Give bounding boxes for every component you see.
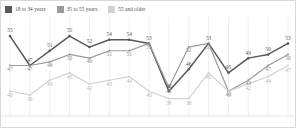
- data-label: 52: [186, 47, 192, 53]
- data-label: 47: [265, 66, 271, 72]
- data-label: 44: [126, 78, 132, 84]
- data-label: 44: [265, 78, 271, 84]
- data-label: 43: [107, 81, 113, 87]
- data-label: 51: [107, 51, 113, 57]
- legend-swatch-icon: [57, 6, 64, 13]
- data-label: 40: [7, 92, 13, 98]
- data-label: 43: [47, 81, 53, 87]
- legend-swatch-icon: [5, 6, 12, 13]
- data-label: 51: [47, 42, 53, 48]
- legend-label: 55 and older: [118, 6, 145, 13]
- data-label: 54: [107, 31, 113, 37]
- chart-frame: 18 to 34 years 35 to 55 years 55 and old…: [0, 0, 296, 128]
- legend-swatch-icon: [108, 6, 115, 13]
- data-label: 50: [285, 55, 291, 61]
- data-label: 42: [246, 85, 252, 91]
- data-label: 38: [186, 100, 192, 106]
- data-label: 55: [67, 27, 73, 33]
- data-label: 53: [285, 35, 291, 41]
- legend-item-18-to-34[interactable]: 18 to 34 years: [5, 6, 46, 13]
- legend-label: 35 to 55 years: [67, 6, 98, 13]
- data-label: 47: [285, 67, 291, 73]
- data-label: 49: [246, 50, 252, 56]
- chart-legend: 18 to 34 years 35 to 55 years 55 and old…: [5, 4, 145, 15]
- data-label: 47: [27, 57, 33, 63]
- data-label: 45: [67, 74, 73, 80]
- legend-item-55-and-older[interactable]: 55 and older: [108, 6, 145, 13]
- data-label: 53: [206, 44, 212, 50]
- data-label: 53: [146, 35, 152, 41]
- data-label: 45: [226, 64, 232, 70]
- data-label: 39: [27, 96, 33, 102]
- data-label: 42: [87, 85, 93, 91]
- data-label: 49: [87, 58, 93, 64]
- data-label: 54: [126, 31, 132, 37]
- legend-label: 18 to 34 years: [15, 6, 46, 13]
- data-label: 40: [226, 92, 232, 98]
- data-label: 46: [186, 61, 192, 67]
- data-label: 53: [206, 35, 212, 41]
- data-label: 47: [7, 66, 13, 72]
- data-label: 38: [166, 100, 172, 106]
- data-label: 47: [27, 66, 33, 72]
- data-label: 50: [265, 46, 271, 52]
- data-label: 51: [126, 51, 132, 57]
- data-label: 40: [146, 92, 152, 98]
- data-label: 53: [146, 44, 152, 50]
- data-label: 55: [7, 27, 13, 33]
- data-label: 45: [206, 74, 212, 80]
- data-label: 41: [166, 88, 172, 94]
- data-label: 50: [67, 55, 73, 61]
- chart-svg: 5547515552545453404653454950534747485049…: [1, 15, 296, 128]
- data-label: 52: [87, 38, 93, 44]
- data-label: 48: [47, 62, 53, 68]
- line-chart-plot-area: 5547515552545453404653454950534747485049…: [1, 15, 296, 128]
- legend-item-35-to-55[interactable]: 35 to 55 years: [57, 6, 98, 13]
